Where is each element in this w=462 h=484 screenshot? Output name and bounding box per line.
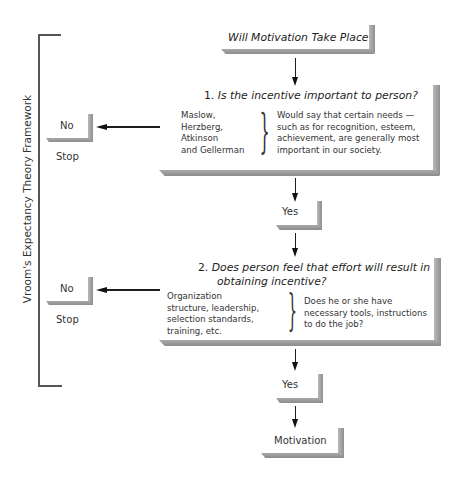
question2-yes-shade-bottom <box>276 398 323 403</box>
question2-factors: Organization structure, leadership, sele… <box>167 291 259 337</box>
theorist-line: and Gellerman <box>181 145 244 157</box>
question2-no-shade-right <box>88 277 93 305</box>
question2-brace: } <box>288 288 297 334</box>
question1-no-label: No <box>60 120 74 131</box>
theorist-line: Herzberg, <box>181 122 244 134</box>
question2-no-label: No <box>60 283 74 294</box>
factor-line: Organization <box>167 291 259 303</box>
start-box-shade-bottom <box>221 49 375 54</box>
framework-bracket-bottom <box>38 385 62 387</box>
explanation-line: Would say that certain needs — <box>277 110 419 122</box>
arrow-start-q1-head <box>292 77 298 86</box>
question2-text-line1: Does person feel that effort will result… <box>212 261 430 274</box>
question2-shade-right <box>434 258 441 346</box>
question1-explanation: Would say that certain needs — such as f… <box>277 110 419 156</box>
question2-stop-label: Stop <box>56 314 79 325</box>
question1-number: 1. <box>204 89 214 102</box>
factor-line: training, etc. <box>167 326 259 338</box>
question1-yes-label: Yes <box>282 206 298 217</box>
explanation-line: Does he or she have <box>304 296 427 308</box>
question1-no-shade-right <box>88 114 93 142</box>
motivation-shade-bottom <box>261 453 344 458</box>
theorist-line: Atkinson <box>181 133 244 145</box>
arrow-q1-yes-line <box>295 178 297 194</box>
factor-line: structure, leadership, <box>167 303 259 315</box>
question2-shade-bottom <box>159 340 441 346</box>
arrow-q2-yes-line <box>295 349 297 363</box>
framework-bracket-top <box>38 34 61 36</box>
framework-label: Vroom's Expectancy Theory Framework <box>21 94 35 304</box>
explanation-line: to do the job? <box>304 319 427 331</box>
factor-line: selection standards, <box>167 314 259 326</box>
explanation-line: important in our society. <box>277 145 419 157</box>
arrow-q2-no-line <box>104 289 160 291</box>
arrow-yes1-q2-line <box>295 233 297 249</box>
question2-explanation: Does he or she have necessary tools, ins… <box>304 296 427 331</box>
question1-brace: } <box>260 106 270 156</box>
question1-text: Is the incentive important to person? <box>218 89 418 102</box>
question1-no-shade-bottom <box>46 138 93 142</box>
framework-bracket-vertical <box>38 34 40 386</box>
arrow-q1-yes-head <box>292 193 298 202</box>
question1-stop-label: Stop <box>56 151 79 162</box>
start-label: Will Motivation Take Place? <box>228 31 374 44</box>
question2-yes-label: Yes <box>282 379 298 390</box>
question2-no-shade-bottom <box>46 301 93 305</box>
question1-shade-right <box>433 85 440 175</box>
arrow-q1-no-head <box>96 124 107 130</box>
arrow-yes1-q2-head <box>292 248 298 257</box>
question2-title-line1: 2. Does person feel that effort will res… <box>198 261 430 274</box>
explanation-line: such as for recognition, esteem, <box>277 122 419 134</box>
question1-shade-bottom <box>159 170 440 176</box>
arrow-yes2-motivation-head <box>292 419 298 428</box>
arrow-q2-yes-head <box>292 362 298 371</box>
question2-title-line2: obtaining incentive? <box>217 275 327 288</box>
arrow-start-q1-line <box>295 58 297 78</box>
explanation-line: achievement, are generally most <box>277 133 419 145</box>
question1-title: 1. Is the incentive important to person? <box>204 89 418 102</box>
arrow-q2-no-head <box>96 287 107 293</box>
theorist-line: Maslow, <box>181 110 244 122</box>
arrow-q1-no-line <box>104 126 160 128</box>
explanation-line: necessary tools, instructions <box>304 308 427 320</box>
question2-number: 2. <box>198 261 208 274</box>
question1-theorists: Maslow, Herzberg, Atkinson and Gellerman <box>181 110 244 156</box>
start-box-shade-right <box>369 25 375 53</box>
motivation-label: Motivation <box>274 435 327 446</box>
arrow-yes2-motivation-line <box>295 406 297 420</box>
question1-yes-shade-bottom <box>276 225 322 230</box>
